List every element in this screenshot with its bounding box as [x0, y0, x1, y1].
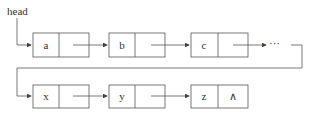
linked-list-diagram: head a b c ··· x y z ∧	[0, 0, 311, 120]
ellipsis: ···	[269, 37, 280, 49]
null-pointer-symbol: ∧	[229, 90, 237, 102]
node-data: b	[119, 39, 125, 51]
head-label: head	[7, 5, 28, 17]
node-data: y	[119, 90, 125, 102]
node-y: y	[109, 85, 165, 108]
wrap-around-arrow	[17, 45, 302, 96]
node-data: z	[202, 90, 207, 102]
node-data: x	[43, 90, 49, 102]
node-data: c	[202, 39, 207, 51]
node-z: z ∧	[191, 85, 248, 108]
node-x: x	[33, 85, 89, 108]
head-pointer-arrow	[17, 18, 31, 45]
node-data: a	[44, 39, 49, 51]
